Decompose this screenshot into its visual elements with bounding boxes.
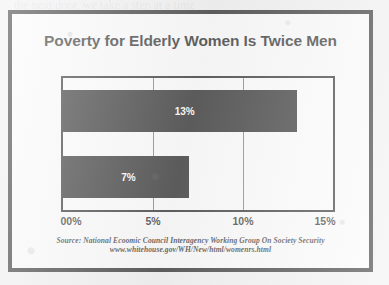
x-tick-label: 5% bbox=[145, 215, 160, 227]
plot-area: 13%7% bbox=[61, 76, 335, 212]
x-tick-label: 10% bbox=[232, 215, 253, 227]
x-tick-label: 15% bbox=[314, 215, 335, 227]
chart-figure-inner: Poverty for Elderly Women Is Twice Men 1… bbox=[12, 14, 369, 268]
bar-value-label: 13% bbox=[175, 106, 195, 117]
scanned-page-background: the next door, we take a step at a time … bbox=[0, 0, 389, 285]
source-note: Source: National Ecoomic Council Interag… bbox=[12, 236, 369, 255]
chart-title: Poverty for Elderly Women Is Twice Men bbox=[12, 32, 369, 50]
source-url-line: www.whitehouse.gov/WH/New/html/womenrs.h… bbox=[12, 245, 369, 254]
bar-value-label: 7% bbox=[121, 172, 135, 183]
chart-figure-frame: Poverty for Elderly Women Is Twice Men 1… bbox=[8, 10, 373, 272]
plot-canvas: 13%7% bbox=[63, 78, 333, 210]
x-axis-tick-labels: 00%5%10%15% bbox=[61, 215, 335, 231]
source-citation-line: Source: National Ecoomic Council Interag… bbox=[12, 236, 369, 245]
x-tick-label: 00% bbox=[60, 215, 81, 227]
